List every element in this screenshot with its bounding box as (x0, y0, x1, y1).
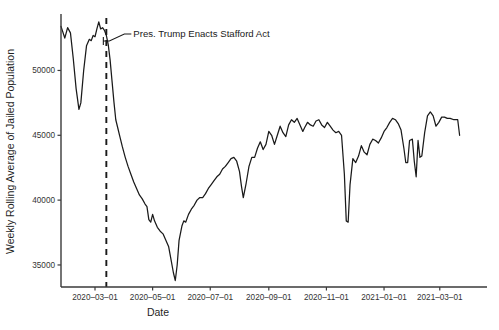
chart-figure: Pres. Trump Enacts Stafford Act 35000400… (0, 0, 499, 330)
y-axis-title: Weekly Rolling Average of Jailed Populat… (4, 49, 16, 254)
event-annotation-layer: Pres. Trump Enacts Stafford Act (103, 18, 270, 287)
series-layer (61, 22, 460, 281)
x-axis-title: Date (147, 306, 169, 318)
line-chart-canvas: Pres. Trump Enacts Stafford Act 35000400… (0, 0, 499, 330)
axis-label-layer: 350004000045000500002020–03–012020–05–01… (4, 49, 463, 318)
y-tick-label: 35000 (32, 261, 55, 270)
x-tick-label: 2020–09–01 (246, 293, 292, 302)
y-tick-label: 45000 (32, 131, 55, 140)
data-series-line (61, 22, 460, 281)
y-tick-label: 50000 (32, 66, 55, 75)
x-tick-label: 2020–11–01 (304, 293, 349, 302)
x-tick-label: 2021–03–01 (417, 293, 463, 302)
annotation-label: Pres. Trump Enacts Stafford Act (133, 28, 270, 39)
x-tick-label: 2020–05–01 (130, 293, 176, 302)
x-tick-label: 2021–01–01 (361, 293, 407, 302)
x-tick-label: 2020–07–01 (187, 293, 233, 302)
x-tick-label: 2020–03–01 (72, 293, 118, 302)
y-tick-label: 40000 (32, 196, 55, 205)
